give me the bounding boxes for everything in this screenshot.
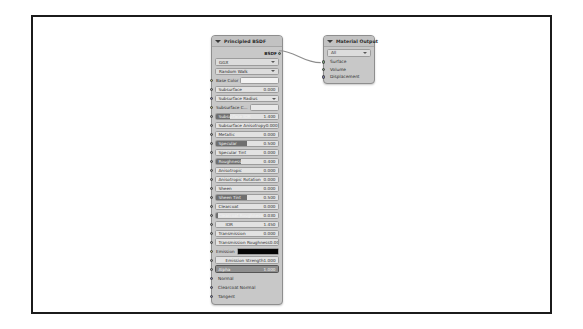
input-socket[interactable] (210, 268, 213, 271)
output-row-bsdf: BSDF (215, 49, 279, 57)
property-label: Alpha (219, 267, 231, 272)
property-row: Specular Tint0.000 (215, 149, 279, 157)
slider-anisotropic-rotation[interactable]: Anisotropic Rotation0.000 (215, 176, 279, 184)
property-row: Clearcoat0.000 (215, 203, 279, 211)
property-value: 0.000 (270, 240, 279, 245)
property-row: Alpha1.000 (215, 265, 279, 273)
input-socket[interactable] (210, 295, 213, 298)
property-row: Base Color (215, 77, 279, 85)
input-socket[interactable] (210, 79, 213, 82)
property-value: 0.000 (264, 204, 276, 209)
color-row: Emission (215, 247, 279, 255)
input-socket[interactable] (210, 142, 213, 145)
property-label: Normal (218, 276, 234, 281)
slider-roughness[interactable]: Roughness0.400 (215, 158, 279, 166)
node-header-material-output[interactable]: Material Output (324, 36, 374, 47)
input-socket[interactable] (210, 232, 213, 235)
input-socket[interactable] (210, 214, 213, 217)
property-label: Metallic (219, 132, 235, 137)
chevron-down-icon (363, 52, 367, 54)
slider-transmission[interactable]: Transmission0.000 (215, 230, 279, 238)
input-socket[interactable] (210, 106, 213, 109)
slider-clearcoat-roughness[interactable]: Clearcoat Roughness0.030 (215, 212, 279, 220)
input-socket[interactable] (210, 97, 213, 100)
slider-specular[interactable]: Specular0.500 (215, 140, 279, 148)
input-socket[interactable] (210, 286, 213, 289)
input-socket-volume[interactable] (322, 68, 325, 71)
input-socket[interactable] (210, 241, 213, 244)
input-socket-surface[interactable] (322, 60, 325, 63)
property-row: Metallic0.000 (215, 131, 279, 139)
property-label: Clearcoat Normal (218, 285, 255, 290)
color-swatch[interactable] (237, 248, 279, 255)
property-row: Clearcoat Normal (215, 283, 279, 291)
slider-anisotropic[interactable]: Anisotropic0.000 (215, 167, 279, 175)
input-socket[interactable] (210, 178, 213, 181)
property-row: Transmission0.000 (215, 230, 279, 238)
input-socket[interactable] (210, 133, 213, 136)
node-principled-bsdf[interactable]: Principled BSDF BSDF GGX Random Walk Bas… (211, 35, 283, 305)
node-title: Principled BSDF (224, 39, 266, 44)
property-value: 1.450 (264, 222, 276, 227)
slider-sheen-tint[interactable]: Sheen Tint0.500 (215, 194, 279, 202)
property-value: 1.000 (264, 258, 276, 263)
menu-subsurface-radius[interactable]: Subsurface Radius (215, 95, 279, 103)
node-editor-canvas[interactable]: Principled BSDF BSDF GGX Random Walk Bas… (33, 17, 550, 312)
input-socket[interactable] (210, 160, 213, 163)
input-socket[interactable] (210, 187, 213, 190)
property-row: Subsurface IOR1.400 (215, 113, 279, 121)
property-value: 0.000 (264, 87, 276, 92)
dropdown-subsurface-method[interactable]: Random Walk (215, 68, 279, 76)
slider-transmission-roughness[interactable]: Transmission Roughness0.000 (215, 238, 279, 246)
slider-alpha[interactable]: Alpha1.000 (215, 265, 279, 273)
slider-subsurface-ior[interactable]: Subsurface IOR1.400 (215, 113, 279, 121)
node-header-principled[interactable]: Principled BSDF (212, 36, 282, 47)
property-label: Base Color (215, 78, 238, 83)
dropdown-distribution[interactable]: GGX (215, 58, 279, 66)
input-socket[interactable] (210, 205, 213, 208)
property-row: Normal (215, 274, 279, 282)
input-socket[interactable] (210, 277, 213, 280)
input-socket[interactable] (210, 88, 213, 91)
input-row: Volume (327, 66, 371, 73)
input-socket[interactable] (210, 115, 213, 118)
input-socket[interactable] (210, 151, 213, 154)
slider-emission-strength[interactable]: Emission Strength1.000 (215, 256, 279, 264)
property-label: Specular (219, 141, 237, 146)
node-material-output[interactable]: Material Output All SurfaceVolumeDisplac… (323, 35, 375, 84)
chevron-down-icon[interactable] (327, 38, 333, 44)
input-socket-displacement[interactable] (322, 75, 325, 78)
property-label: Tangent (218, 294, 235, 299)
property-value: 0.000 (264, 231, 276, 236)
color-row: Subsurface C... (215, 104, 279, 112)
slider-specular-tint[interactable]: Specular Tint0.000 (215, 149, 279, 157)
input-socket[interactable] (210, 223, 213, 226)
input-socket-list: SurfaceVolumeDisplacement (327, 58, 371, 80)
node-link-noodle (33, 17, 550, 312)
property-row: Subsurface0.000 (215, 86, 279, 94)
input-socket[interactable] (210, 124, 213, 127)
input-socket[interactable] (210, 169, 213, 172)
property-row: Clearcoat Roughness0.030 (215, 212, 279, 220)
property-row: Transmission Roughness0.000 (215, 238, 279, 246)
slider-sheen[interactable]: Sheen0.000 (215, 185, 279, 193)
slider-metallic[interactable]: Metallic0.000 (215, 131, 279, 139)
input-socket[interactable] (210, 259, 213, 262)
input-socket[interactable] (210, 250, 213, 253)
input-label: Displacement (330, 74, 360, 79)
slider-subsurface-anisotropy[interactable]: Subsurface Anisotropy0.000 (215, 122, 279, 130)
input-socket[interactable] (210, 196, 213, 199)
property-value: 0.000 (266, 123, 278, 128)
dropdown-target[interactable]: All (327, 49, 371, 57)
input-row: Displacement (327, 73, 371, 80)
property-label: Clearcoat Roughness (219, 213, 263, 218)
color-swatch[interactable] (240, 77, 279, 84)
input-row: Surface (327, 58, 371, 65)
property-label: Subsurface Radius (219, 96, 258, 101)
slider-ior[interactable]: IOR1.450 (215, 221, 279, 229)
color-swatch[interactable] (250, 104, 279, 111)
slider-clearcoat[interactable]: Clearcoat0.000 (215, 203, 279, 211)
output-socket-bsdf[interactable] (278, 52, 281, 55)
chevron-down-icon[interactable] (215, 38, 221, 44)
slider-subsurface[interactable]: Subsurface0.000 (215, 86, 279, 94)
